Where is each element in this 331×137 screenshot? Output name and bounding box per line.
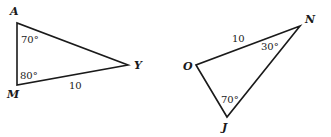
angle-label-n: 30° xyxy=(261,41,279,52)
vertex-label-a: A xyxy=(9,5,19,18)
triangle-ojn-outline xyxy=(196,26,300,117)
angle-label-m: 80° xyxy=(20,70,38,81)
vertex-label-m: M xyxy=(6,88,20,101)
vertex-label-j: J xyxy=(220,121,228,134)
angle-label-j: 70° xyxy=(221,94,239,105)
triangle-amy: A M Y 70° 80° 10 xyxy=(6,5,143,101)
vertex-label-o: O xyxy=(183,60,193,73)
vertex-label-y: Y xyxy=(134,59,143,72)
vertex-label-n: N xyxy=(304,13,316,26)
side-label-my: 10 xyxy=(69,80,82,91)
triangle-ojn: O J N 30° 70° 10 xyxy=(183,13,316,134)
angle-label-a: 70° xyxy=(21,34,39,45)
triangles-diagram: A M Y 70° 80° 10 O J N 30° 70° 10 xyxy=(0,0,331,137)
side-label-on: 10 xyxy=(232,33,245,44)
